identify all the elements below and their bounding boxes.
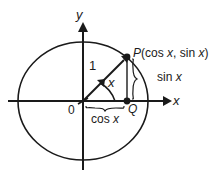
x-axis-label: x bbox=[173, 94, 180, 107]
cos-fn-text: cos bbox=[91, 112, 110, 126]
point-p-comma: , bbox=[173, 46, 176, 60]
point-p-cos-fn: cos bbox=[145, 46, 164, 60]
point-p-name: P bbox=[133, 46, 141, 60]
y-axis-label: y bbox=[76, 8, 83, 21]
x-axis-arrowhead bbox=[163, 96, 172, 106]
y-axis-arrowhead bbox=[78, 22, 88, 32]
point-p-close-paren: ) bbox=[204, 46, 208, 60]
angle-label: x bbox=[108, 76, 115, 89]
point-p-label: P(cos x, sin x) bbox=[133, 47, 208, 59]
sin-label: sin x bbox=[157, 71, 182, 83]
point-q-label: Q bbox=[128, 103, 137, 115]
point-p-sin-fn: sin bbox=[180, 46, 195, 60]
point-p-marker bbox=[124, 54, 131, 61]
sin-fn-text: sin bbox=[157, 70, 172, 84]
origin-label: 0 bbox=[68, 104, 75, 116]
cos-label: cos x bbox=[91, 113, 119, 125]
cos-arg-text: x bbox=[113, 112, 119, 126]
radius-length-label: 1 bbox=[89, 59, 96, 72]
sin-arg-text: x bbox=[176, 70, 182, 84]
unit-circle-figure: y x 0 1 x Q P(cos x, sin x) sin x cos x bbox=[0, 0, 216, 175]
cos-brace bbox=[86, 106, 124, 111]
